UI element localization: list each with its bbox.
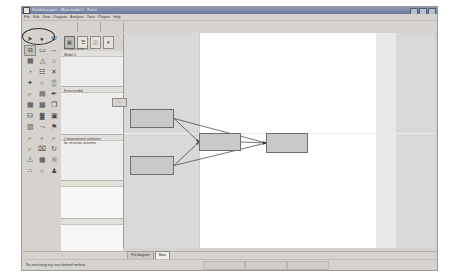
- org-unit-tool[interactable]: △: [36, 56, 48, 67]
- event-shape-tool[interactable]: ⧉: [24, 45, 36, 56]
- section-properties[interactable]: Computational attributes for structure a…: [61, 135, 123, 181]
- search-plus-icon: ⌕: [40, 135, 44, 142]
- matrix-tool[interactable]: ▩: [36, 100, 48, 111]
- menu-item-view[interactable]: View: [42, 14, 50, 21]
- status-bar: No simulating any user-defined method: [23, 259, 438, 269]
- search-plus-tool[interactable]: ⌕: [36, 133, 48, 144]
- database-tool[interactable]: ⛁: [24, 111, 36, 122]
- calendar-tool[interactable]: ▦: [36, 155, 48, 166]
- menu-item-help[interactable]: Help: [113, 14, 120, 21]
- tab-main[interactable]: Main: [155, 251, 170, 259]
- menu-item-diagram[interactable]: Diagram: [53, 14, 67, 21]
- org-unit-icon: △: [40, 58, 45, 65]
- section-empty-1[interactable]: [61, 181, 123, 219]
- report-tool[interactable]: ▥: [24, 122, 36, 133]
- flag-tool[interactable]: ⚑: [48, 122, 60, 133]
- section-header-strip: [61, 181, 123, 187]
- menu-bar[interactable]: File Edit View Diagram Analysis Tools Pl…: [22, 14, 437, 21]
- section-label: Event model: [64, 89, 83, 93]
- circle2-tool[interactable]: ○: [36, 166, 48, 177]
- attach-tool[interactable]: ⎘: [48, 155, 60, 166]
- filter-icon[interactable]: ▾: [103, 36, 114, 49]
- node-right[interactable]: [266, 133, 308, 153]
- layers-tool[interactable]: ❐: [48, 100, 60, 111]
- view-tab-strip[interactable]: Full diagram Main: [23, 251, 438, 259]
- tab-full-diagram[interactable]: Full diagram: [127, 251, 154, 259]
- image-tool[interactable]: ⌧: [36, 144, 48, 155]
- toolbar-separator: [123, 22, 124, 32]
- connector-tool[interactable]: Ψ: [48, 34, 60, 45]
- pencil-icon: ✒: [51, 91, 57, 98]
- explorer-toolbar[interactable]: ▦ ☰ ◫ ▾ Group number 1: [61, 33, 123, 52]
- tool-palette-grid[interactable]: ➤●Ψ⧉▭↔▦△⌂◔☷✕✦○▒⌕▤✒▦▩❐⛁▓▣▥⤳⚑⌕⌕⌕⌕⌧↻⚠▦⎘∴○♟: [24, 34, 60, 177]
- tool-palette[interactable]: ➤●Ψ⧉▭↔▦△⌂◔☷✕✦○▒⌕▤✒▦▩❐⛁▓▣▥⤳⚑⌕⌕⌕⌕⌧↻⚠▦⎘∴○♟: [23, 33, 62, 248]
- save-view-tool[interactable]: ▣: [48, 111, 60, 122]
- magnify-icon: ⌕: [28, 146, 32, 153]
- search-small-tool[interactable]: ⌕: [24, 133, 36, 144]
- menu-item-tools[interactable]: Tools: [87, 14, 95, 21]
- application-window: Untitled project - Main model 1 : Event …: [21, 6, 438, 271]
- warning-tool[interactable]: ⚠: [24, 155, 36, 166]
- section-event[interactable]: Event model: [61, 87, 123, 135]
- link-tool[interactable]: ↔: [48, 45, 60, 56]
- magnify-tool[interactable]: ⌕: [24, 144, 36, 155]
- data-store-tool[interactable]: ◔: [24, 67, 36, 78]
- panel-floating-button[interactable]: ...: [112, 98, 127, 107]
- diagram-canvas[interactable]: [124, 33, 435, 248]
- menu-item-plugins[interactable]: Plugins: [98, 14, 110, 21]
- search-minus-icon: ⌕: [52, 135, 56, 142]
- node-label: [131, 157, 173, 159]
- status-message: No simulating any user-defined method: [26, 263, 85, 267]
- node-label: [200, 134, 240, 136]
- cluster-icon: ☷: [39, 69, 45, 76]
- function-shape-tool[interactable]: ▭: [36, 45, 48, 56]
- flow-tool[interactable]: ⤳: [36, 122, 48, 133]
- circle-tool[interactable]: ○: [36, 78, 48, 89]
- report-icon: ▥: [27, 124, 34, 131]
- rotate-tool[interactable]: ↻: [48, 144, 60, 155]
- dots-tool[interactable]: ∴: [24, 166, 36, 177]
- node-middle[interactable]: [199, 133, 241, 151]
- menu-item-file[interactable]: File: [24, 14, 30, 21]
- table-tool[interactable]: ▦: [24, 100, 36, 111]
- pencil-tool[interactable]: ✒: [48, 89, 60, 100]
- cluster-tool[interactable]: ☷: [36, 67, 48, 78]
- dim-icon: ▤: [39, 91, 46, 98]
- role-icon: ⌂: [52, 58, 56, 65]
- people-icon: ♟: [51, 168, 57, 175]
- grid-tool[interactable]: ▒: [48, 78, 60, 89]
- people-tool[interactable]: ♟: [48, 166, 60, 177]
- search-minus-tool[interactable]: ⌕: [48, 133, 60, 144]
- pointer-tool[interactable]: ➤: [24, 34, 36, 45]
- node-top-left[interactable]: [130, 109, 174, 128]
- section-header-strip: [61, 219, 123, 225]
- properties-icon[interactable]: ◫: [90, 36, 101, 49]
- menu-item-analysis[interactable]: Analysis: [70, 14, 83, 21]
- section-model[interactable]: Model 1: [61, 51, 123, 87]
- zoom-icon: ⌕: [28, 91, 32, 98]
- connection-node-bottom-left-to-node-middle: [174, 142, 199, 166]
- layers-icon: ❐: [51, 102, 57, 109]
- menu-item-edit[interactable]: Edit: [33, 14, 39, 21]
- calendar-icon: ▦: [39, 157, 46, 164]
- node-bottom-left[interactable]: [130, 156, 174, 175]
- chart-tool[interactable]: ▓: [36, 111, 48, 122]
- role-tool[interactable]: ⌂: [48, 56, 60, 67]
- process-tool[interactable]: ▦: [24, 56, 36, 67]
- title-bar: Untitled project - Main model 1 : Event: [22, 7, 437, 14]
- zoom-tool[interactable]: ⌕: [24, 89, 36, 100]
- toolbar-separator: [100, 22, 101, 32]
- matrix-icon: ▩: [39, 102, 46, 109]
- status-cell-2: [245, 261, 287, 270]
- pointer-icon: ➤: [27, 36, 33, 43]
- function-shape-icon: ▭: [39, 47, 46, 54]
- save-view-icon: ▣: [51, 113, 58, 120]
- delete-icon: ✕: [51, 69, 57, 76]
- delete-tool[interactable]: ✕: [48, 67, 60, 78]
- arrow-up-tool[interactable]: ✦: [24, 78, 36, 89]
- dim-tool[interactable]: ▤: [36, 89, 48, 100]
- table-icon: ▦: [27, 102, 34, 109]
- arrow-up-icon: ✦: [27, 80, 33, 87]
- model-explorer-panel[interactable]: ▦ ☰ ◫ ▾ Group number 1 Model 1Event mode…: [61, 33, 124, 248]
- pan-tool[interactable]: ●: [36, 34, 48, 45]
